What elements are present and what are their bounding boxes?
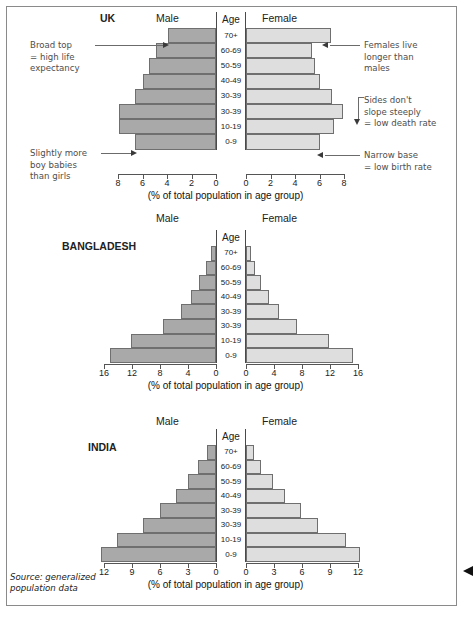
bar-male — [207, 445, 216, 460]
bar-male — [119, 104, 216, 119]
bar-female — [246, 43, 312, 58]
age-label: 30-39 — [217, 308, 245, 316]
axis-tick-label: 0 — [213, 567, 218, 577]
chart-panel-bangladesh: Male Female BANGLADESH Age70+60-6950-594… — [0, 198, 451, 403]
bar-female — [246, 503, 301, 518]
axis-tick-label: 0 — [243, 567, 248, 577]
axis-tick-label: 6 — [140, 178, 145, 188]
bar-female — [246, 275, 261, 290]
annotation-narrow-base: Narrow base = low birth rate — [364, 150, 472, 173]
age-column-uk: Age70+60-6950-5940-4930-3930-3910-190-9 — [216, 12, 246, 150]
age-column-header: Age — [217, 431, 245, 442]
arrowhead-broad-top — [163, 42, 169, 48]
age-label: 10-19 — [217, 337, 245, 345]
bar-female — [246, 533, 346, 548]
male-header-uk: Male — [156, 12, 179, 24]
bar-male — [143, 74, 217, 89]
bar-male — [149, 58, 216, 73]
age-label: 60-69 — [217, 47, 245, 55]
bar-male — [176, 489, 216, 504]
arrowhead-sides-dont-slope — [354, 119, 360, 125]
axis-tick-label: 2 — [189, 178, 194, 188]
age-column-bangladesh: Age70+60-6950-5940-4930-3930-3910-190-9 — [216, 230, 246, 363]
arrowhead-narrow-base — [317, 152, 323, 158]
age-label: 50-59 — [217, 279, 245, 287]
bar-female — [246, 246, 251, 261]
age-column-header: Age — [217, 232, 245, 243]
page-edge-marker — [463, 566, 473, 576]
bar-female — [246, 74, 320, 89]
bar-male — [181, 304, 216, 319]
bar-female — [246, 290, 269, 305]
age-label: 30-39 — [217, 507, 245, 515]
age-label: 70+ — [217, 32, 245, 40]
age-label: 0-9 — [217, 551, 245, 559]
annotation-sides-dont-slope: Sides don't slope steeply = low death ra… — [364, 95, 472, 130]
age-label: 0-9 — [217, 138, 245, 146]
female-header-uk: Female — [262, 12, 297, 24]
bar-female — [246, 474, 273, 489]
bar-male — [117, 533, 216, 548]
bar-female — [246, 489, 285, 504]
bar-female — [246, 58, 315, 73]
axis-tick-label: 6 — [317, 178, 322, 188]
bar-female — [246, 547, 360, 562]
male-header-bd: Male — [156, 212, 179, 224]
axis-tick-label: 12 — [353, 567, 363, 577]
age-label: 30-39 — [217, 322, 245, 330]
axis-tick-label: 8 — [157, 368, 162, 378]
chart-panel-uk: UK Male Female Age70+60-6950-5940-4930-3… — [0, 0, 451, 198]
age-label: 10-19 — [217, 123, 245, 131]
leader-sides-dont-slope-v — [358, 97, 359, 121]
axis-tick-label: 8 — [341, 178, 346, 188]
axis-tick-label: 4 — [164, 178, 169, 188]
bar-male — [191, 290, 216, 305]
axis-tick-label: 12 — [325, 368, 335, 378]
bar-female — [246, 304, 279, 319]
axis-tick-label: 8 — [299, 368, 304, 378]
axis-tick-label: 4 — [185, 368, 190, 378]
bar-male — [143, 518, 216, 533]
bar-male — [101, 547, 216, 562]
axis-tick-label: 2 — [268, 178, 273, 188]
bar-female — [246, 518, 318, 533]
male-header-in: Male — [156, 415, 179, 427]
age-label: 40-49 — [217, 77, 245, 85]
axis-tick-label: 4 — [292, 178, 297, 188]
age-label: 40-49 — [217, 492, 245, 500]
axis-tick-label: 12 — [127, 368, 137, 378]
bar-male — [135, 89, 216, 104]
bar-female — [246, 319, 297, 334]
bar-male — [163, 319, 216, 334]
bar-male — [206, 261, 217, 276]
age-label: 70+ — [217, 249, 245, 257]
source-note: Source: generalized population data — [10, 572, 96, 594]
leader-females-live-longer — [330, 45, 360, 46]
leader-sides-dont-slope-h — [358, 97, 364, 98]
female-header-bd: Female — [262, 212, 297, 224]
bar-male — [188, 474, 216, 489]
leader-broad-top — [95, 45, 165, 46]
bar-female — [246, 445, 254, 460]
axis-tick-label: 3 — [271, 567, 276, 577]
age-label: 30-39 — [217, 108, 245, 116]
bar-male — [168, 28, 216, 43]
bar-female — [246, 28, 331, 43]
age-column-india: Age70+60-6950-5940-4930-3930-3910-190-9 — [216, 429, 246, 562]
chart-title-bangladesh: BANGLADESH — [62, 240, 136, 252]
age-label: 60-69 — [217, 463, 245, 471]
age-label: 30-39 — [217, 521, 245, 529]
age-column-header: Age — [217, 14, 245, 25]
bar-male — [160, 503, 216, 518]
bar-female — [246, 261, 255, 276]
axis-tick-label: 0 — [243, 368, 248, 378]
axis-tick-label: 12 — [99, 567, 109, 577]
chart-title-uk: UK — [100, 12, 115, 24]
axis-tick-label: 0 — [213, 178, 218, 188]
arrowhead-slightly-more-boys — [131, 150, 137, 156]
axis-tick-label: 3 — [185, 567, 190, 577]
bar-male — [198, 460, 216, 475]
axis-tick-label: 16 — [99, 368, 109, 378]
bar-male — [135, 134, 216, 149]
annotation-females-live-longer: Females live longer than males — [364, 40, 470, 75]
